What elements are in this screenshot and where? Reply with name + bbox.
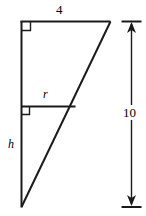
hypotenuse-line xyxy=(22,22,111,208)
top-side-length-label: 4 xyxy=(56,3,63,16)
left-side-height-label: h xyxy=(8,138,14,150)
right-angle-marker-inner xyxy=(22,107,30,115)
dimension-length-label: 10 xyxy=(121,105,138,120)
geometry-figure: 4 r h 10 xyxy=(0,0,146,216)
inner-segment-label: r xyxy=(43,88,48,100)
right-angle-marker-top-left xyxy=(22,22,31,31)
